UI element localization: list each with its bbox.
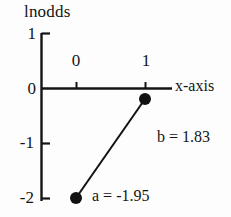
plot-area xyxy=(0,0,231,217)
lnodds-chart: lnodds x-axis 1 0 -1 -2 0 1 b = 1.83 a =… xyxy=(0,0,231,217)
data-point-x0 xyxy=(70,192,82,204)
data-point-x1 xyxy=(139,93,151,105)
data-line-segment xyxy=(76,99,145,198)
